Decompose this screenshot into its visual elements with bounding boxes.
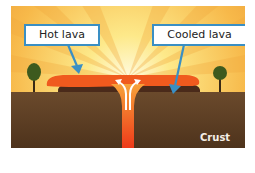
hot-lava-label: Hot lava xyxy=(24,24,100,46)
crust-label: Crust xyxy=(200,132,230,143)
lava-flow-diagram: Hot lava Cooled lava Crust xyxy=(11,6,245,148)
cooled-lava-label: Cooled lava xyxy=(152,24,245,46)
